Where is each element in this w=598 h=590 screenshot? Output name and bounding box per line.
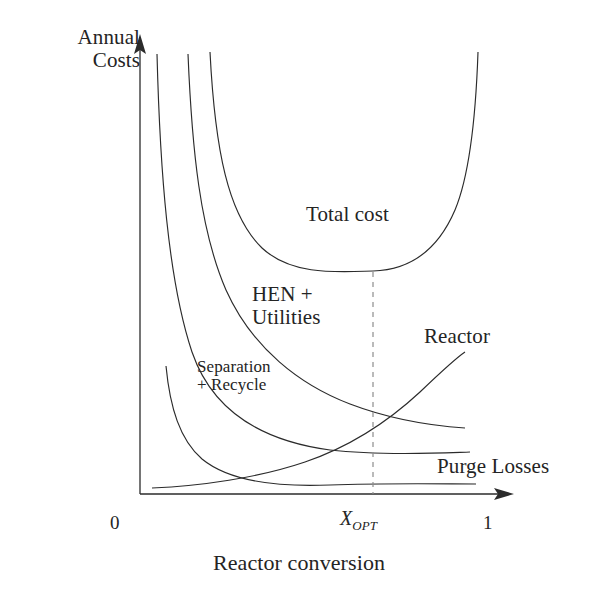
x-axis-label: Reactor conversion xyxy=(0,551,598,575)
cost-vs-conversion-chart: Annual Costs Total cost HEN + Utilities … xyxy=(0,0,598,590)
x-tick-label-xopt: XOPT xyxy=(340,508,377,533)
xopt-base: X xyxy=(340,507,352,529)
annotation-purge-losses: Purge Losses xyxy=(437,455,549,478)
x-tick-label-0: 0 xyxy=(110,513,120,534)
annotation-separation-recycle: Separation + Recycle xyxy=(197,358,271,395)
x-tick-label-1: 1 xyxy=(483,513,493,534)
curve-total-cost xyxy=(210,52,478,272)
annotation-total-cost: Total cost xyxy=(306,203,389,226)
xopt-subscript: OPT xyxy=(352,518,377,533)
annotation-reactor: Reactor xyxy=(424,325,490,348)
y-axis-label: Annual Costs xyxy=(28,26,140,71)
annotation-hen-utilities: HEN + Utilities xyxy=(252,283,321,328)
